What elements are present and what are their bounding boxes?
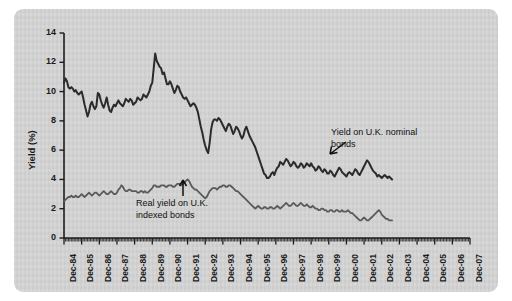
y-axis-tick-label: 2 <box>36 203 56 213</box>
x-axis-tick-label: Dec-85 <box>85 254 95 282</box>
x-axis-tick-label: Dec-05 <box>438 254 448 282</box>
x-axis-tick-label: Dec-84 <box>68 254 78 282</box>
y-axis-tick-label: 12 <box>36 56 56 66</box>
x-axis-tick-label: Dec-06 <box>456 254 466 282</box>
x-axis-tick-label: Dec-91 <box>191 254 201 282</box>
x-axis-tick-label: Dec-07 <box>474 254 484 282</box>
real-yield-line <box>64 179 392 220</box>
y-axis-tick-label: 10 <box>36 86 56 96</box>
real-annotation-label: Real yield on U.K. indexed bonds <box>136 198 208 221</box>
x-axis-tick-label: Dec-97 <box>297 254 307 282</box>
x-axis-tick-label: Dec-01 <box>368 254 378 282</box>
x-axis-tick-label: Dec-99 <box>332 254 342 282</box>
nominal-annotation-label: Yield on U.K. nominal bonds <box>331 127 417 150</box>
x-axis-tick-label: Dec-87 <box>120 254 130 282</box>
y-axis-tick-label: 4 <box>36 173 56 183</box>
y-axis-tick-label: 8 <box>36 115 56 125</box>
x-axis-tick-label: Dec-04 <box>421 254 431 282</box>
x-axis-tick-label: Dec-96 <box>279 254 289 282</box>
x-axis-tick-label: Dec-02 <box>385 254 395 282</box>
chart-figure: Yield (%) 02468101214 Dec-84Dec-85Dec-86… <box>0 0 512 301</box>
x-axis-tick-label: Dec-88 <box>138 254 148 282</box>
y-axis-tick-label: 14 <box>36 27 56 37</box>
x-axis-tick-label: Dec-90 <box>173 254 183 282</box>
x-axis-tick-label: Dec-86 <box>103 254 113 282</box>
x-axis-tick-label: Dec-94 <box>244 254 254 282</box>
nominal-yield-line <box>64 54 392 180</box>
y-axis-tick-label: 0 <box>36 232 56 242</box>
x-axis-tick-label: Dec-92 <box>209 254 219 282</box>
x-axis-tick-label: Dec-00 <box>350 254 360 282</box>
x-axis-tick-label: Dec-89 <box>156 254 166 282</box>
x-axis-tick-label: Dec-93 <box>226 254 236 282</box>
x-axis-tick-label: Dec-98 <box>315 254 325 282</box>
x-axis-tick-label: Dec-95 <box>262 254 272 282</box>
y-axis-tick-label: 6 <box>36 144 56 154</box>
x-axis-tick-label: Dec-03 <box>403 254 413 282</box>
